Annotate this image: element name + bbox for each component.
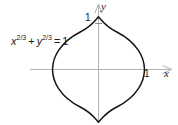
equation-right-hand-side: 1 [62, 35, 68, 47]
equation-x-exponent: 2/3 [17, 34, 27, 41]
astroid-figure: y x 1 1 x2/3+y2/3=1 [0, 0, 178, 125]
equation-annotation: x2/3+y2/3=1 [11, 34, 68, 47]
equation-plus-operator: + [26, 35, 36, 47]
x-tick-label-1: 1 [144, 69, 150, 79]
x-axis-label: x [164, 68, 169, 79]
y-tick-label-1: 1 [85, 13, 91, 23]
equation-y-exponent: 2/3 [42, 34, 52, 41]
equation-equals-operator: = [52, 35, 62, 47]
y-axis-label: y [101, 1, 106, 12]
